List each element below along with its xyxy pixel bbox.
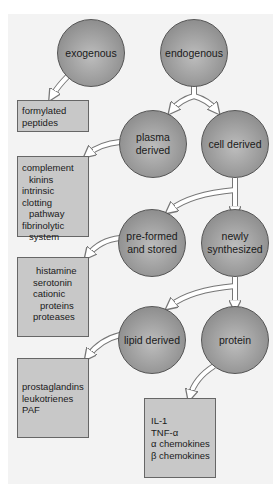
node-lipid-derived: lipid derived — [118, 306, 186, 374]
box-item: system — [22, 231, 84, 243]
box-item: peptides — [22, 117, 84, 129]
box-item: PAF — [22, 404, 84, 416]
box-lipid-mediators: prostaglandins leukotrienes PAF — [17, 358, 89, 438]
box-item: IL-1 — [151, 415, 211, 427]
node-label: endogenous — [165, 47, 223, 60]
box-item: β chemokines — [151, 450, 211, 462]
node-label-line: plasma — [136, 131, 170, 143]
node-label-line: pre-formed — [126, 230, 177, 242]
node-protein: protein — [201, 306, 269, 374]
node-label: cell derived — [208, 138, 261, 151]
node-label-line: newly — [222, 230, 249, 242]
box-item: kinins — [22, 174, 84, 186]
node-preformed-stored: pre-formedand stored — [118, 209, 186, 277]
box-item: pathway — [22, 208, 84, 220]
node-newly-synthesized: newlysynthesized — [201, 209, 269, 277]
box-item: prostaglandins — [22, 381, 84, 393]
box-item: complement — [22, 162, 84, 174]
node-exogenous: exogenous — [57, 19, 125, 87]
arrow-exogenous-to-peptides — [52, 76, 68, 96]
box-item: formylated — [22, 105, 84, 117]
box-protein-mediators: IL-1 TNF-α α chemokines β chemokines — [144, 398, 216, 478]
node-label-line: derived — [136, 144, 170, 156]
node-endogenous: endogenous — [160, 19, 228, 87]
box-item: intrinsic clotting — [22, 185, 84, 208]
box-item: cationic — [33, 288, 84, 300]
node-label: lipid derived — [124, 334, 180, 347]
box-item: proteins — [33, 300, 84, 312]
box-item: TNF-α — [151, 427, 211, 439]
box-formylated-peptides: formylated peptides — [17, 100, 89, 132]
box-plasma-mediators: complement kinins intrinsic clotting pat… — [17, 156, 89, 237]
box-item: α chemokines — [151, 438, 211, 450]
node-plasma-derived: plasmaderived — [119, 110, 187, 178]
box-item: proteases — [33, 311, 84, 323]
box-item: serotonin — [33, 277, 84, 289]
box-item: fibrinolytic — [22, 220, 84, 232]
arrow-protein-to-box — [190, 366, 214, 396]
node-label: exogenous — [65, 47, 116, 60]
box-preformed-mediators: histamine serotonin cationic proteins pr… — [17, 257, 89, 337]
box-item: histamine — [36, 265, 84, 277]
node-label: protein — [219, 334, 251, 347]
node-label-line: and stored — [127, 243, 177, 255]
node-cell-derived: cell derived — [201, 110, 269, 178]
node-label-line: synthesized — [207, 243, 262, 255]
box-item: leukotrienes — [22, 393, 84, 405]
